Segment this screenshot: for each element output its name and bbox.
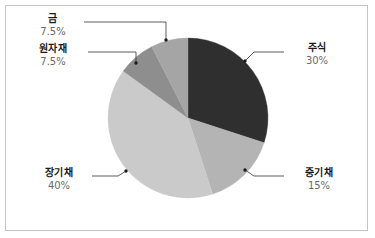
pie-label-commodity-percent: 7.5% bbox=[18, 56, 88, 68]
pie-label-longbond-name: 장기채 bbox=[26, 167, 92, 179]
pie-label-gold-name: 금 bbox=[22, 13, 84, 25]
pie-label-midbond: 중기채 15% bbox=[286, 167, 352, 191]
pie-label-midbond-name: 중기채 bbox=[286, 167, 352, 179]
pie-label-gold: 금 7.5% bbox=[22, 13, 84, 37]
pie-label-midbond-percent: 15% bbox=[286, 180, 352, 192]
pie-label-commodity: 원자재 7.5% bbox=[18, 43, 88, 67]
pie-label-commodity-name: 원자재 bbox=[18, 43, 88, 55]
leader-line-stock bbox=[245, 52, 284, 61]
anchor-dot-midbond bbox=[243, 168, 246, 171]
leader-line-longbond bbox=[92, 171, 126, 176]
pie-label-stock-name: 주식 bbox=[286, 42, 348, 54]
anchor-dot-longbond bbox=[124, 169, 127, 172]
pie-label-gold-percent: 7.5% bbox=[22, 26, 84, 38]
pie-chart-figure: 금 7.5% 원자재 7.5% 장기채 40% 주식 30% 중기채 15% bbox=[0, 0, 375, 238]
anchor-dot-commodity bbox=[134, 61, 137, 64]
leader-line-gold bbox=[84, 22, 166, 40]
pie-label-longbond: 장기채 40% bbox=[26, 167, 92, 191]
pie-label-stock-percent: 30% bbox=[286, 55, 348, 67]
leader-line-commodity bbox=[88, 52, 136, 63]
leader-line-midbond bbox=[245, 170, 284, 176]
anchor-dot-gold bbox=[164, 38, 167, 41]
anchor-dot-stock bbox=[243, 59, 246, 62]
pie-label-longbond-percent: 40% bbox=[26, 180, 92, 192]
pie-label-stock: 주식 30% bbox=[286, 42, 348, 66]
